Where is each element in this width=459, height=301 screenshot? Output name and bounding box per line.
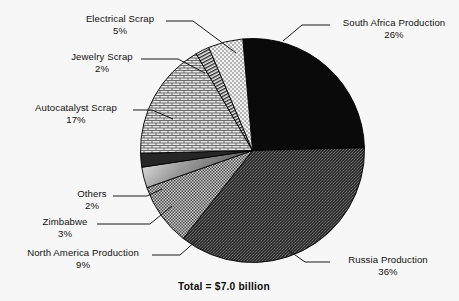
- label-electrical-scrap-name: Electrical Scrap: [72, 13, 168, 25]
- label-others-name: Others: [70, 188, 114, 200]
- label-jewelry-scrap-pct: 2%: [62, 63, 142, 75]
- pie-slices: [140, 39, 364, 263]
- label-electrical-scrap: Electrical Scrap 5%: [72, 13, 168, 37]
- label-zimbabwe: Zimbabwe 3%: [33, 216, 97, 240]
- label-others-pct: 2%: [70, 200, 114, 212]
- pie-chart-figure: Electrical Scrap 5% Jewelry Scrap 2% Aut…: [0, 0, 459, 301]
- pie-slice: [243, 39, 365, 151]
- label-north-america-production-pct: 9%: [14, 259, 152, 271]
- label-autocatalyst-scrap: Autocatalyst Scrap 17%: [18, 102, 134, 126]
- label-russia-production: Russia Production 36%: [333, 254, 443, 278]
- label-south-africa-production-name: South Africa Production: [332, 17, 456, 29]
- label-jewelry-scrap-name: Jewelry Scrap: [62, 51, 142, 63]
- total-caption: Total = $7.0 billion: [178, 281, 270, 292]
- label-north-america-production-name: North America Production: [14, 247, 152, 259]
- label-jewelry-scrap: Jewelry Scrap 2%: [62, 51, 142, 75]
- label-others: Others 2%: [70, 188, 114, 212]
- leader-south-africa: [283, 25, 330, 41]
- label-south-africa-production: South Africa Production 26%: [332, 17, 456, 41]
- label-south-africa-production-pct: 26%: [332, 29, 456, 41]
- label-russia-production-name: Russia Production: [333, 254, 443, 266]
- label-zimbabwe-pct: 3%: [33, 228, 97, 240]
- label-autocatalyst-scrap-pct: 17%: [18, 114, 134, 126]
- label-russia-production-pct: 36%: [333, 266, 443, 278]
- label-autocatalyst-scrap-name: Autocatalyst Scrap: [18, 102, 134, 114]
- label-electrical-scrap-pct: 5%: [72, 25, 168, 37]
- label-zimbabwe-name: Zimbabwe: [33, 216, 97, 228]
- label-north-america-production: North America Production 9%: [14, 247, 152, 271]
